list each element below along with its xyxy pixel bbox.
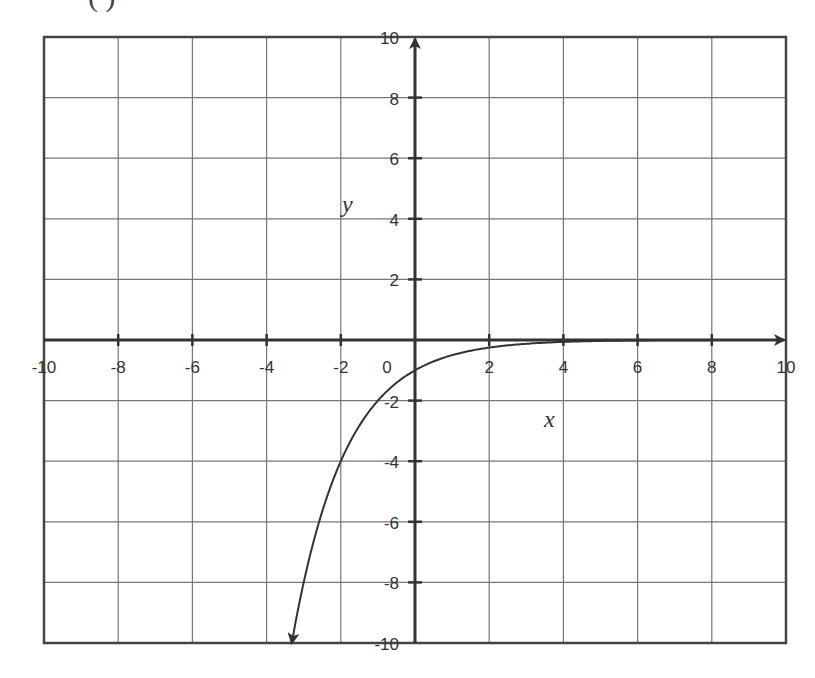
y-tick-label: 4 [390,211,399,230]
x-tick-label: -10 [32,358,57,377]
x-tick-label: -6 [185,358,200,377]
x-tick-label: 0 [382,358,391,377]
x-tick-label: -8 [111,358,126,377]
y-tick-label: -8 [384,574,399,593]
x-tick-label: 6 [633,358,642,377]
y-tick-label: -2 [384,393,399,412]
y-tick-label: -4 [384,453,399,472]
y-tick-label: 8 [390,90,399,109]
y-tick-label: 2 [390,271,399,290]
y-tick-label: 6 [390,150,399,169]
y-tick-label: -6 [384,514,399,533]
problem-label: ( ) [88,0,115,13]
x-tick-label: 4 [559,358,568,377]
x-tick-label: 10 [777,358,796,377]
y-tick-label: -10 [374,635,399,654]
x-tick-label: 8 [707,358,716,377]
y-tick-label: 10 [380,29,399,48]
x-tick-label: -2 [333,358,348,377]
x-tick-label: 2 [484,358,493,377]
x-axis-label: x [543,406,555,432]
x-tick-label: -4 [259,358,274,377]
y-axis-label: y [340,191,353,217]
coordinate-plane: ( ) -10-8-6-4-20246810-10-8-6-4-2246810 … [0,0,815,678]
